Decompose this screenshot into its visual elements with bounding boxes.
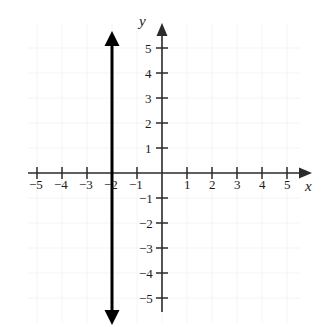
x-axis-label: x <box>305 179 312 194</box>
x-axis <box>28 168 312 179</box>
x-axis-arrowhead <box>299 168 312 179</box>
y-tick-label-4: 4 <box>145 67 152 80</box>
y-tick-label-minus-3: −3 <box>139 242 153 255</box>
x-tick-label-2: 2 <box>209 178 216 191</box>
x-tick-label-3: 3 <box>234 178 241 191</box>
x-tick-label-minus-1: −1 <box>129 178 143 191</box>
x-tick-label-1: 1 <box>184 178 191 191</box>
x-tick-label-minus-2: −2 <box>104 178 118 191</box>
x-tick-label-minus-3: −3 <box>79 178 93 191</box>
line-arrowhead-top <box>105 31 120 46</box>
x-tick-label-4: 4 <box>259 178 266 191</box>
y-tick-label-3: 3 <box>145 92 152 105</box>
x-tick-label-minus-5: −5 <box>29 178 43 191</box>
y-tick-label-minus-2: −2 <box>139 217 153 230</box>
y-axis <box>157 23 168 312</box>
y-tick-label-2: 2 <box>145 117 152 130</box>
plot-area <box>0 0 325 336</box>
y-axis-arrowhead <box>157 23 168 36</box>
line-arrowhead-bottom <box>105 310 120 325</box>
y-tick-label-minus-5: −5 <box>139 292 153 305</box>
y-axis-label: y <box>139 14 146 29</box>
x-tick-label-minus-4: −4 <box>54 178 68 191</box>
y-tick-label-minus-4: −4 <box>139 267 153 280</box>
y-tick-label-5: 5 <box>145 42 152 55</box>
x-tick-label-5: 5 <box>284 178 291 191</box>
y-tick-label-1: 1 <box>145 142 152 155</box>
coordinate-plane-figure: −5 −4 −3 −2 −1 1 2 3 4 5 5 4 3 2 1 −1 −2… <box>0 0 325 336</box>
y-tick-label-minus-1: −1 <box>139 192 153 205</box>
